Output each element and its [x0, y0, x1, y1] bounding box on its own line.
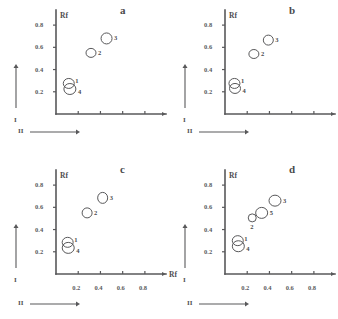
- y-axis-title-b: Rf: [229, 11, 237, 20]
- x-tick-label-c-0.8: 0.8: [139, 284, 147, 291]
- panel-c-letter: c: [120, 163, 125, 175]
- y-tick-label-b-0.6: 0.6: [204, 43, 212, 50]
- panel-d: d Rf0.80.60.40.20.20.40.60.8RfIII14253: [169, 160, 338, 319]
- y-tick-label-b-0.4: 0.4: [204, 66, 212, 73]
- x-tick-label-c-0.4: 0.4: [94, 284, 102, 291]
- panel-b: b Rf0.80.60.40.2III1423: [169, 0, 338, 159]
- direction-label-first-c: I: [14, 276, 17, 284]
- y-tick-label-a-0.4: 0.4: [35, 66, 43, 73]
- y-axis-title-a: Rf: [60, 11, 68, 20]
- spot-label-d-1: 1: [244, 235, 247, 242]
- y-tick-label-b-0.2: 0.2: [204, 88, 212, 95]
- x-tick-label-d-0.2: 0.2: [241, 284, 249, 291]
- figure-tlc-chromatograms: a Rf0.80.60.40.2III1423 b Rf0.80.60.40.2…: [0, 0, 338, 319]
- spot-label-b-4: 4: [243, 87, 246, 94]
- direction-label-second-a: II: [18, 127, 23, 135]
- spot-label-a-3: 3: [114, 34, 117, 41]
- spot-label-b-3: 3: [275, 36, 278, 43]
- spot-label-a-2: 2: [98, 49, 101, 56]
- spot-label-b-1: 1: [241, 77, 244, 84]
- x-tick-label-c-0.6: 0.6: [117, 284, 125, 291]
- panel-a-plot: [0, 0, 169, 159]
- direction-label-first-d: I: [183, 276, 186, 284]
- direction-label-second-b: II: [187, 127, 192, 135]
- spot-label-a-1: 1: [75, 77, 78, 84]
- panel-b-letter: b: [289, 4, 295, 16]
- spot-label-b-2: 2: [261, 50, 264, 57]
- direction-label-second-c: II: [18, 299, 23, 307]
- spot-label-d-5: 5: [270, 209, 273, 216]
- y-tick-label-a-0.6: 0.6: [35, 43, 43, 50]
- x-tick-label-c-0.2: 0.2: [72, 284, 80, 291]
- panel-a: a Rf0.80.60.40.2III1423: [0, 0, 169, 159]
- y-tick-label-d-0.4: 0.4: [204, 226, 212, 233]
- y-tick-label-c-0.8: 0.8: [35, 181, 43, 188]
- y-tick-label-d-0.2: 0.2: [204, 248, 212, 255]
- y-tick-label-c-0.4: 0.4: [35, 226, 43, 233]
- panel-d-plot: [169, 160, 338, 319]
- panel-c-plot: [0, 160, 169, 319]
- spot-label-c-4: 4: [76, 247, 79, 254]
- y-tick-label-c-0.2: 0.2: [35, 248, 43, 255]
- direction-label-first-b: I: [183, 116, 186, 124]
- spot-label-d-3: 3: [283, 197, 286, 204]
- y-tick-label-b-0.8: 0.8: [204, 21, 212, 28]
- panel-a-letter: a: [120, 4, 126, 16]
- panel-d-letter: d: [289, 163, 295, 175]
- direction-label-second-d: II: [187, 299, 192, 307]
- panel-b-plot: [169, 0, 338, 159]
- y-tick-label-d-0.6: 0.6: [204, 203, 212, 210]
- y-tick-label-a-0.2: 0.2: [35, 88, 43, 95]
- spot-label-c-2: 2: [94, 209, 97, 216]
- y-tick-label-d-0.8: 0.8: [204, 181, 212, 188]
- y-axis-title-d: Rf: [229, 171, 237, 180]
- x-tick-label-d-0.8: 0.8: [308, 284, 316, 291]
- y-tick-label-a-0.8: 0.8: [35, 21, 43, 28]
- spot-label-a-4: 4: [78, 88, 81, 95]
- x-tick-label-d-0.6: 0.6: [286, 284, 294, 291]
- spot-label-c-3: 3: [110, 194, 113, 201]
- y-axis-title-c: Rf: [60, 171, 68, 180]
- x-tick-label-d-0.4: 0.4: [263, 284, 271, 291]
- spot-label-d-2: 2: [250, 223, 253, 230]
- spot-label-d-4: 4: [246, 245, 249, 252]
- direction-label-first-a: I: [14, 116, 17, 124]
- panel-c: c Rf0.80.60.40.20.20.40.60.8RfIII1423: [0, 160, 169, 319]
- spot-label-c-1: 1: [74, 236, 77, 243]
- y-tick-label-c-0.6: 0.6: [35, 203, 43, 210]
